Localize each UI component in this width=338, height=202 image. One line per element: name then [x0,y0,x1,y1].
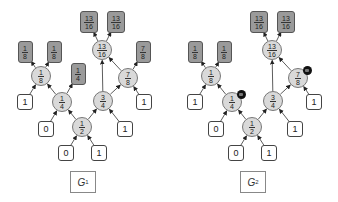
edge-arrow [216,62,219,67]
edge-arrow [110,85,120,94]
value-box-node-w0a: 0 [208,121,224,137]
dark-box-node-d18b: 18 [47,41,62,63]
value-box-node-w1b: 1 [136,94,152,110]
value-box-node-w1d: 1 [261,145,277,161]
denominator: 8 [296,79,300,86]
fraction: 18 [38,69,44,84]
fraction: 1316 [84,15,94,30]
denominator: 2 [250,128,254,135]
fraction: 18 [22,45,28,60]
black-marker-icon [237,90,246,99]
denominator: 4 [76,75,80,82]
edge-arrow [88,109,96,119]
dark-box-node-d18a: 18 [188,41,203,63]
numerator: 13 [254,15,264,23]
denominator: 8 [141,53,145,60]
value-box-node-w0b: 0 [58,145,74,161]
circle-node-c12: 12 [72,117,92,137]
fraction: 14 [75,67,81,82]
fraction: 12 [249,120,255,135]
denominator: 16 [112,23,120,30]
edge-arrow [106,32,110,41]
numerator: 3 [100,94,106,102]
graph-label-g1-sub: 1 [85,179,88,185]
denominator: 16 [255,23,263,30]
denominator: 2 [80,128,84,135]
edge-arrow [133,62,137,69]
fraction: 78 [125,71,131,86]
dark-box-node-d14: 14 [71,63,86,85]
dark-box-node-top13a: 1316 [250,11,268,33]
numerator: 1 [249,120,255,128]
graph-label-g2-sub: 2 [255,179,258,185]
numerator: 13 [111,15,121,23]
numerator: 1 [59,95,65,103]
fraction: 1316 [267,43,277,58]
fraction: 1316 [281,15,291,30]
fraction: 78 [295,71,301,86]
numerator: 1 [51,45,57,53]
circle-node-c18: 18 [201,66,221,86]
denominator: 16 [85,23,93,30]
circle-node-c78: 78 [118,68,138,88]
fraction: 34 [270,94,276,109]
edge-arrow [276,32,280,41]
numerator: 13 [281,15,291,23]
edge-arrow [94,32,98,40]
fraction: 18 [221,45,227,60]
edge-arrow [46,62,49,67]
numerator: 1 [75,67,81,75]
marker-glyph [239,93,243,96]
denominator: 16 [282,23,290,30]
value-box-node-w1a: 1 [17,94,33,110]
numerator: 3 [270,94,276,102]
denominator: 8 [52,53,56,60]
value-box-node-w1c: 1 [117,121,133,137]
circle-node-c14: 14 [52,92,72,112]
denominator: 4 [101,102,105,109]
circle-node-c1316: 1316 [262,40,282,60]
dark-box-node-d18a: 18 [18,41,33,63]
value-box-node-w1c: 1 [287,121,303,137]
value-box-node-w1b: 1 [306,94,322,110]
edge-arrow [69,110,76,119]
numerator: 7 [295,71,301,79]
edge-arrow [102,60,103,91]
circle-node-c12: 12 [242,117,262,137]
graph-label-g1-text: G [77,177,85,188]
numerator: 7 [125,71,131,79]
edge-arrow [109,58,121,71]
denominator: 8 [23,53,27,60]
fraction: 1316 [254,15,264,30]
numerator: 1 [221,45,227,53]
edge-arrow [48,84,56,94]
value-box-node-w1d: 1 [91,145,107,161]
black-marker-icon [303,66,312,75]
denominator: 16 [268,51,276,58]
edge-arrow [218,84,226,94]
numerator: 13 [97,43,107,51]
dark-box-node-top13b: 1316 [277,11,295,33]
dark-box-node-d18b: 18 [217,41,232,63]
numerator: 1 [38,69,44,77]
dark-box-node-top13a: 1316 [80,11,98,33]
fraction: 14 [229,95,235,110]
numerator: 7 [140,45,146,53]
graph-label-g1: G1 [70,171,96,193]
circle-node-c1316: 1316 [92,40,112,60]
fraction: 1316 [97,43,107,58]
fraction: 18 [208,69,214,84]
fraction: 78 [140,45,146,60]
graph-label-g2-text: G [247,177,255,188]
edge-arrow [258,109,266,119]
edge-arrow [264,32,268,40]
fraction: 14 [59,95,65,110]
numerator: 1 [229,95,235,103]
denominator: 8 [209,77,213,84]
denominator: 4 [60,103,64,110]
fraction: 18 [192,45,198,60]
circle-node-c34: 34 [93,91,113,111]
graph-label-g2: G2 [240,171,266,193]
edge-arrow [279,58,291,71]
numerator: 1 [208,69,214,77]
